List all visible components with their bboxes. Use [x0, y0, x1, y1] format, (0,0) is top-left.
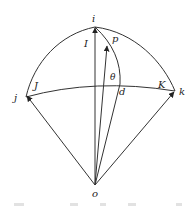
arc-j-k	[26, 86, 175, 97]
vector-o-p	[95, 46, 107, 185]
vector-o-j	[27, 96, 95, 185]
label-j: j	[12, 92, 17, 103]
label-p: p	[112, 33, 119, 44]
label-d: d	[119, 86, 125, 97]
spherical-vector-diagram: i I p θ d j J k K o	[0, 0, 196, 207]
label-theta: θ	[110, 72, 116, 82]
diagram-canvas: i I p θ d j J k K o	[0, 0, 196, 207]
label-i: i	[92, 13, 95, 24]
label-I: I	[83, 38, 89, 49]
label-o: o	[92, 188, 98, 199]
label-k: k	[179, 86, 185, 97]
label-K: K	[157, 79, 166, 90]
figure-caption-cropped	[0, 201, 196, 207]
label-J: J	[32, 80, 39, 91]
